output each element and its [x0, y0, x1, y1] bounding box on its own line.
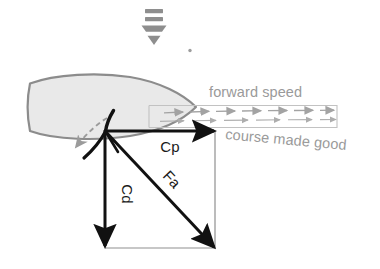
wind-direction-down-arrow-icon: [142, 9, 167, 45]
diagram-canvas: Cp Cd Fa forward speed course made good: [0, 0, 380, 269]
vector-cp-label: Cp: [160, 138, 180, 155]
boat-hull-icon: [28, 74, 196, 139]
vector-fa-label: Fa: [160, 167, 185, 192]
sailing-force-vector-diagram: Cp Cd Fa forward speed course made good: [0, 0, 380, 269]
vector-cd-label: Cd: [119, 184, 136, 204]
small-dot-marker: [188, 49, 191, 52]
forward-speed-label: forward speed: [209, 84, 302, 100]
course-made-good-label: course made good: [225, 126, 348, 153]
flow-arrow-row-lower: [160, 120, 336, 122]
